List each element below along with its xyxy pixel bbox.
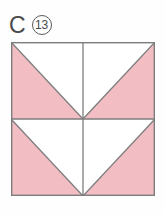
block-number-badge: 13 bbox=[32, 15, 52, 35]
block-label: C 13 bbox=[9, 11, 52, 39]
block-number-text: 13 bbox=[35, 19, 48, 31]
quilt-block bbox=[11, 42, 155, 196]
quilt-block-svg bbox=[11, 42, 155, 196]
page-root: C 13 bbox=[0, 0, 165, 215]
block-letter: C bbox=[9, 14, 26, 37]
